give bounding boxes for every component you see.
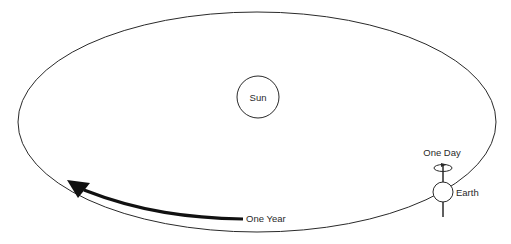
one-year-label: One Year (246, 213, 286, 224)
orbit-diagram: Sun One Year Earth One Day (0, 0, 511, 244)
one-year-arrow: One Year (67, 180, 286, 224)
earth-circle (433, 182, 453, 202)
one-day-label: One Day (423, 147, 461, 158)
one-day-rotation: One Day (423, 147, 461, 172)
earth-label: Earth (456, 187, 479, 198)
earth: Earth (433, 165, 479, 217)
arrowhead-icon (67, 180, 90, 198)
sun: Sun (237, 76, 279, 118)
arrow-shaft (84, 190, 243, 219)
orbit-path (18, 12, 496, 232)
sun-label: Sun (250, 92, 267, 103)
